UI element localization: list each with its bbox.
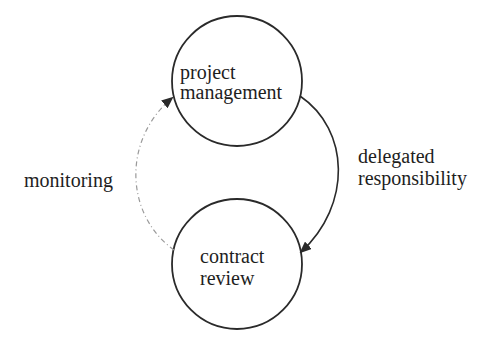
node-project-management: project management — [172, 16, 302, 146]
node-contract-review: contract review — [172, 199, 302, 329]
node-label-line: contract — [200, 245, 265, 267]
edge-label-line: responsibility — [358, 167, 467, 190]
edge-label-line: delegated — [358, 145, 435, 168]
cycle-diagram: project management contract review deleg… — [0, 0, 503, 348]
edge-label-line: monitoring — [24, 169, 113, 192]
arrow-right-curve — [300, 96, 338, 252]
diagram-canvas: project management contract review deleg… — [0, 0, 503, 348]
node-label-line: review — [200, 267, 255, 289]
edge-monitoring: monitoring — [24, 98, 174, 250]
arrow-left-curve — [136, 98, 174, 250]
edge-delegated-responsibility: delegated responsibility — [300, 96, 467, 252]
node-label-line: management — [180, 81, 283, 104]
